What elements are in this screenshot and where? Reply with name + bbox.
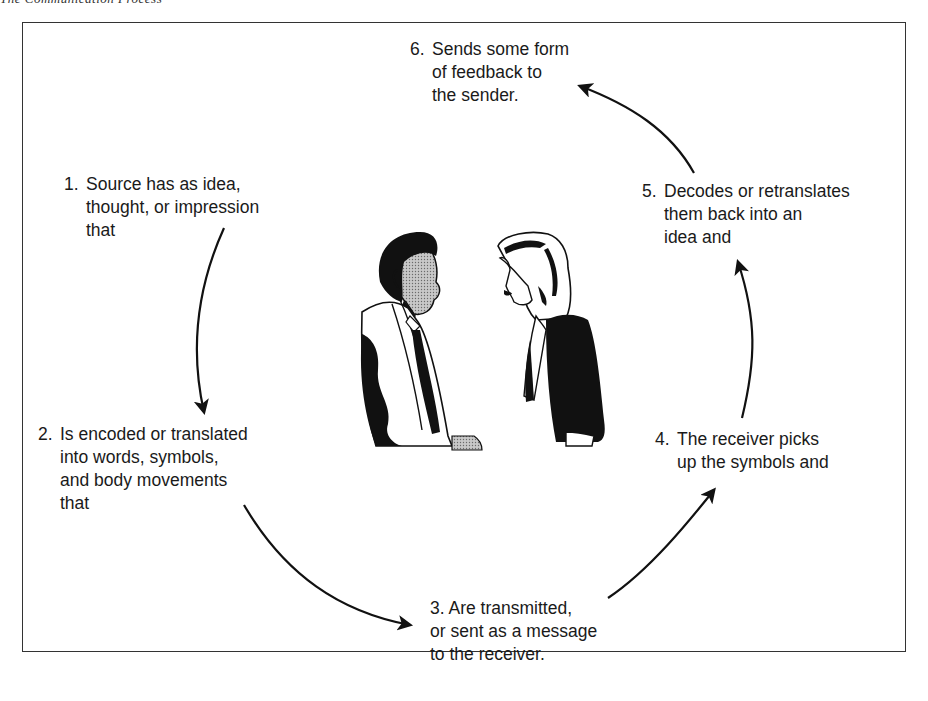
illustration-people-conversing — [0, 0, 928, 701]
man-figure — [361, 232, 482, 450]
woman-figure — [498, 233, 605, 447]
